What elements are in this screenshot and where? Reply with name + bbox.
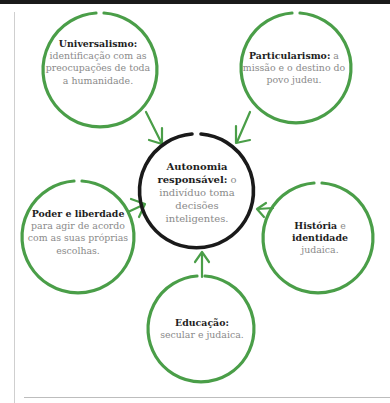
node-title: Poder e liberdade: [32, 208, 125, 219]
node-title: Universalismo:: [59, 38, 137, 49]
node-autonomia: Autonomia responsável: o indivíduo toma …: [148, 160, 246, 225]
arrow-from-universalismo-icon: [146, 112, 162, 144]
node-body: secular e judaica.: [160, 329, 244, 340]
node-poder-liberdade: Poder e liberdade para agir de acordo co…: [26, 208, 130, 257]
arrow-from-educacao-icon: [195, 252, 209, 277]
node-title-b: identidade: [292, 232, 348, 243]
node-particularismo: Particularismo: a missão e o destino do …: [238, 50, 350, 87]
arrow-from-particularismo-icon: [236, 112, 250, 143]
node-title-a: História: [294, 220, 337, 231]
node-body: para agir de acordo com as suas próprias…: [28, 220, 128, 255]
node-body: identificação com as preocupações de tod…: [46, 50, 150, 85]
node-title: Educação:: [175, 317, 229, 328]
node-title: Particularismo:: [249, 50, 330, 61]
node-mid: e: [340, 220, 346, 231]
node-historia-identidade: História e identidade judaica.: [280, 220, 360, 257]
node-universalismo: Universalismo: identificação com as preo…: [42, 38, 154, 87]
node-body: judaica.: [301, 244, 338, 255]
center-title: Autonomia responsável:: [157, 161, 227, 185]
node-educacao: Educação: secular e judaica.: [150, 317, 254, 341]
